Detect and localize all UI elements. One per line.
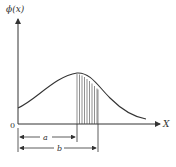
y-axis-label: ϕ(x) — [6, 4, 25, 14]
dimension-b-label: b — [57, 144, 62, 153]
origin-label: 0 — [10, 121, 15, 130]
x-axis-label: X — [162, 119, 170, 129]
probability-density-diagram: ϕ(x) X 0 a b — [0, 0, 176, 167]
dimension-a-label: a — [43, 133, 48, 142]
